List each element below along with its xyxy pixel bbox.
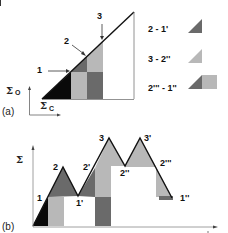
point-label-1: 1 [37, 65, 42, 75]
light-rect-b1 [48, 197, 64, 226]
hysteresis-diagram: 1 2 3 Σ O Σ C (a) 2 - 1' 3 - 2'' 2''' - … [0, 0, 228, 233]
point-label-b-2tripleprime: 2''' [160, 158, 171, 168]
legend-swatch-light-triangle [188, 49, 202, 63]
y-axis-arrow-b [32, 145, 35, 150]
point-label-b-3prime: 3' [144, 133, 151, 143]
legend-swatch-dark-triangle-3 [188, 75, 202, 89]
legend-label-2: 3 - 2'' [148, 54, 170, 64]
x-axis-arrow-b [213, 226, 218, 229]
point-label-b-3: 3 [99, 133, 104, 143]
panel-a-label: (a) [2, 106, 14, 117]
x-axis-dot [207, 231, 208, 232]
point-label-3: 3 [97, 11, 102, 21]
legend: 2 - 1' 3 - 2'' 2''' - 1'' [148, 19, 217, 93]
legend-swatch-light-square [202, 75, 217, 89]
point-label-2: 2 [64, 36, 69, 46]
sigma-o-subscript: O [15, 89, 21, 96]
panel-b-label: (b) [2, 221, 14, 232]
light-gray-square [87, 56, 103, 72]
sigma-c-label: Σ [40, 100, 47, 111]
sigma-label-b: Σ [16, 154, 23, 165]
sigma-o-label: Σ [6, 85, 13, 96]
point-label-b-2doubleprime: 2'' [120, 168, 129, 178]
point-label-b-2prime: 2' [83, 162, 90, 172]
arrow-head-2 [81, 51, 86, 56]
point-label-b-1: 1 [37, 193, 42, 203]
corner-mark [0, 0, 1, 6]
point-label-b-2: 2 [53, 162, 58, 172]
light-triangle-3prime [125, 138, 156, 167]
sigma-c-subscript: C [49, 105, 54, 112]
x-axis-arrow-a [57, 114, 61, 117]
point-label-b-1doubleprime: 1'' [180, 193, 189, 203]
dark-rect-b [95, 197, 111, 226]
y-axis-arrow-a [28, 86, 31, 90]
legend-swatch-dark-triangle [188, 19, 202, 33]
panel-a: 1 2 3 Σ O Σ C (a) [2, 11, 134, 117]
panel-b: Σ (b) 1 2 1' 2' 3 2'' 3' 2''' 1'' [2, 133, 218, 233]
point-label-b-1prime: 1' [76, 198, 83, 208]
dark-gray-cell [87, 72, 103, 99]
light-gray-cell [71, 72, 87, 99]
arrow-head-3 [100, 36, 104, 40]
legend-label-1: 2 - 1' [148, 24, 168, 34]
legend-label-3: 2''' - 1'' [148, 83, 177, 93]
